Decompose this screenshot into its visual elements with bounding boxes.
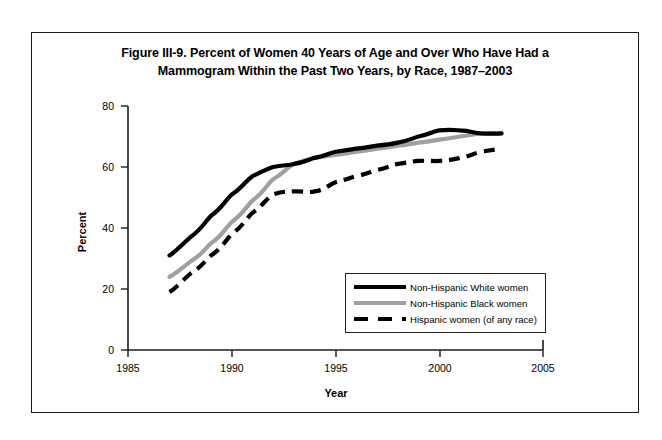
legend-swatch-solid-black-icon <box>352 279 408 295</box>
y-tick-label-80: 80 <box>102 100 114 112</box>
y-axis-title: Percent <box>76 211 88 252</box>
x-tick-label-1985: 1985 <box>116 362 140 374</box>
y-tick-label-0: 0 <box>108 344 114 356</box>
figure-panel: Figure III-9. Percent of Women 40 Years … <box>0 0 662 440</box>
x-tick-labels: 1985 1990 1995 2000 2005 <box>116 362 555 374</box>
line-chart-svg: 80 60 40 20 0 1985 1990 1995 2000 2005 Y… <box>0 0 662 440</box>
x-tick-group <box>128 350 543 357</box>
legend-label-hispanic: Hispanic women (of any race) <box>408 314 537 325</box>
series-line-non-hispanic-black <box>170 133 502 277</box>
y-tick-label-60: 60 <box>102 161 114 173</box>
chart-legend: Non-Hispanic White women Non-Hispanic Bl… <box>345 273 546 333</box>
x-tick-label-2005: 2005 <box>531 362 555 374</box>
x-tick-label-1995: 1995 <box>324 362 348 374</box>
data-series-group <box>170 130 502 292</box>
legend-item-hispanic: Hispanic women (of any race) <box>352 311 537 327</box>
x-tick-label-1990: 1990 <box>220 362 244 374</box>
legend-label-non-hispanic-black: Non-Hispanic Black women <box>408 298 527 309</box>
series-line-hispanic <box>170 149 502 292</box>
legend-label-non-hispanic-white: Non-Hispanic White women <box>408 282 528 293</box>
y-tick-label-20: 20 <box>102 283 114 295</box>
legend-item-non-hispanic-white: Non-Hispanic White women <box>352 279 537 295</box>
x-axis-title: Year <box>324 387 348 399</box>
y-tick-label-40: 40 <box>102 222 114 234</box>
legend-swatch-solid-gray-icon <box>352 295 408 311</box>
legend-swatch-dashed-black-icon <box>352 311 408 327</box>
legend-item-non-hispanic-black: Non-Hispanic Black women <box>352 295 537 311</box>
x-tick-label-2000: 2000 <box>428 362 452 374</box>
y-tick-labels: 80 60 40 20 0 <box>102 100 114 356</box>
y-tick-group <box>121 106 128 350</box>
chart-plot-area: 80 60 40 20 0 1985 1990 1995 2000 2005 Y… <box>0 0 662 440</box>
